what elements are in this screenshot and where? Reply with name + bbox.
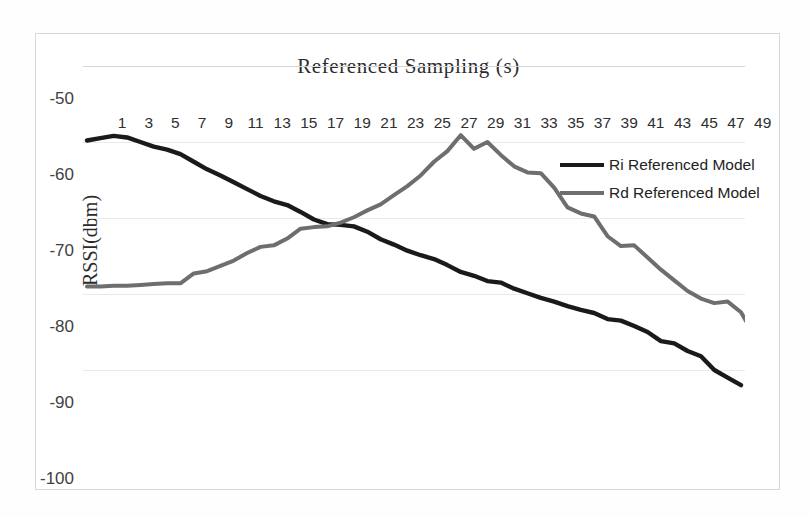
- y-tick-label: -50: [28, 89, 74, 109]
- plot-area: [83, 66, 745, 446]
- legend-color-swatch: [560, 163, 604, 167]
- x-tick-label: 49: [754, 114, 771, 132]
- legend: Ri Referenced ModelRd Referenced Model: [560, 152, 775, 208]
- legend-item[interactable]: Rd Referenced Model: [560, 180, 775, 205]
- y-tick-label: -90: [28, 393, 74, 413]
- y-tick-label: -100: [28, 469, 74, 489]
- y-tick-label: -80: [28, 317, 74, 337]
- legend-color-swatch: [560, 191, 604, 195]
- legend-item[interactable]: Ri Referenced Model: [560, 152, 775, 177]
- figure-canvas: Referenced Sampling (s) RSSI(dbm) -50-60…: [0, 0, 811, 516]
- y-tick-label: -70: [28, 241, 74, 261]
- legend-label: Ri Referenced Model: [609, 156, 755, 174]
- y-axis-tick-labels: -50-60-70-80-90-100: [22, 99, 74, 479]
- legend-label: Rd Referenced Model: [609, 184, 760, 202]
- y-tick-label: -60: [28, 165, 74, 185]
- plot-svg: [83, 66, 745, 446]
